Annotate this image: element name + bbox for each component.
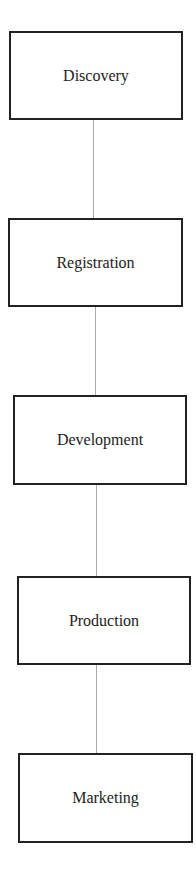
connector-development-production xyxy=(96,485,97,576)
node-label: Discovery xyxy=(63,67,129,85)
node-discovery: Discovery xyxy=(9,31,183,120)
node-label: Marketing xyxy=(72,789,139,807)
node-development: Development xyxy=(13,395,187,485)
node-production: Production xyxy=(17,576,191,665)
node-registration: Registration xyxy=(8,218,183,307)
node-label: Development xyxy=(57,431,143,449)
node-label: Production xyxy=(69,612,139,630)
connector-production-marketing xyxy=(96,665,97,753)
node-marketing: Marketing xyxy=(18,753,193,843)
connector-registration-development xyxy=(95,307,96,395)
connector-discovery-registration xyxy=(93,120,94,218)
node-label: Registration xyxy=(56,254,134,272)
